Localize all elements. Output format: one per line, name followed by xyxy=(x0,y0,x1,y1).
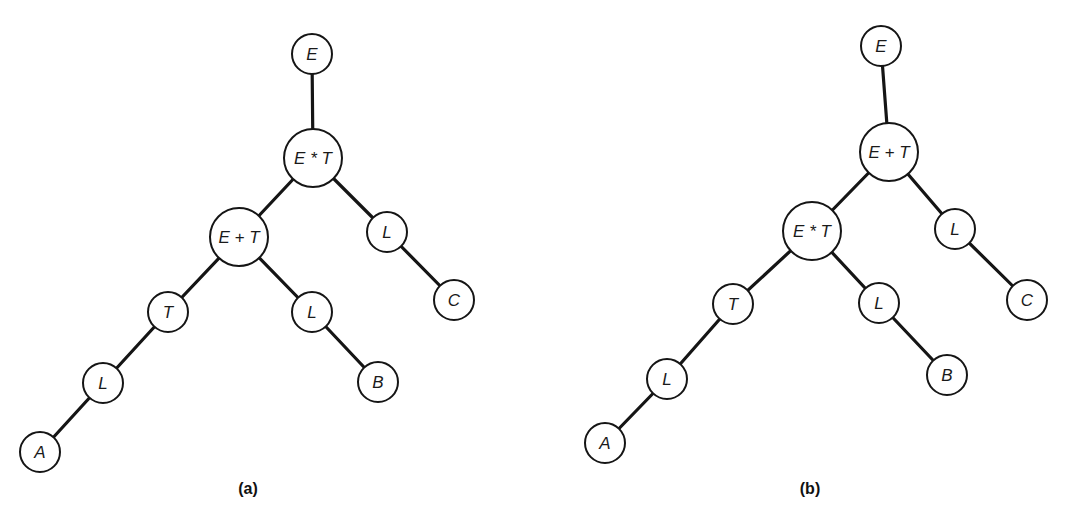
tree-node-emt: E * T xyxy=(783,202,841,260)
node-label: E + T xyxy=(218,228,261,247)
node-label: T xyxy=(728,295,740,314)
tree-nodes: EE + TE * TLTLCLBA xyxy=(585,26,1047,463)
parse-tree-b: EE + TE * TLTLCLBA (b) xyxy=(585,26,1047,497)
node-label: L xyxy=(98,374,107,393)
tree-node-e: E xyxy=(861,26,901,66)
node-label: E + T xyxy=(868,143,911,162)
tree-node-ll: L xyxy=(647,359,687,399)
tree-node-c: C xyxy=(434,280,474,320)
node-label: L xyxy=(662,370,671,389)
parse-tree-figure: EE * TE + TLTLCLBA (a) EE + TE * TLTLCLB… xyxy=(0,0,1074,532)
tree-node-lm: L xyxy=(859,283,899,323)
node-label: L xyxy=(307,303,316,322)
tree-node-ept: E + T xyxy=(210,208,268,266)
tree-node-emt: E * T xyxy=(284,129,342,187)
node-label: T xyxy=(163,303,175,322)
tree-node-a: A xyxy=(585,423,625,463)
tree-node-lr: L xyxy=(367,212,407,252)
tree-node-ept: E + T xyxy=(860,123,918,181)
tree-node-e: E xyxy=(292,34,332,74)
node-label: E xyxy=(875,37,887,56)
tree-node-b: B xyxy=(927,355,967,395)
tree-node-lr: L xyxy=(935,209,975,249)
node-label: A xyxy=(598,434,610,453)
node-label: E * T xyxy=(793,222,832,241)
panel-caption-a: (a) xyxy=(238,480,258,497)
node-label: B xyxy=(941,366,952,385)
node-label: B xyxy=(372,373,383,392)
node-label: L xyxy=(382,223,391,242)
node-label: E * T xyxy=(294,149,333,168)
tree-node-b: B xyxy=(358,362,398,402)
node-label: L xyxy=(950,220,959,239)
tree-node-t: T xyxy=(713,284,753,324)
node-label: A xyxy=(33,443,45,462)
tree-node-ll: L xyxy=(83,363,123,403)
node-label: E xyxy=(306,45,318,64)
node-label: C xyxy=(448,291,461,310)
parse-tree-a: EE * TE + TLTLCLBA (a) xyxy=(20,34,474,497)
panel-caption-b: (b) xyxy=(800,480,820,497)
tree-node-t: T xyxy=(148,292,188,332)
tree-node-c: C xyxy=(1007,280,1047,320)
node-label: L xyxy=(874,294,883,313)
node-label: C xyxy=(1021,291,1034,310)
tree-node-a: A xyxy=(20,432,60,472)
tree-node-lm: L xyxy=(292,292,332,332)
